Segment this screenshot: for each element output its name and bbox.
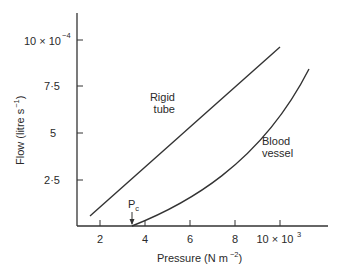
- y-tick-label: 2·5: [44, 174, 60, 186]
- blood-vessel-label: Blood: [262, 135, 290, 147]
- rigid-tube-line: [90, 47, 280, 216]
- blood-vessel-label: vessel: [262, 147, 293, 159]
- arrowhead-icon: [130, 219, 135, 225]
- y-tick-label: 7·5: [44, 80, 60, 92]
- x-axis-label: Pressure (N m−2): [157, 250, 242, 264]
- y-tick-label: 10 × 10: [24, 35, 61, 47]
- x-tick-label: 2: [97, 233, 103, 245]
- x-tick-label: 6: [187, 233, 193, 245]
- x-tick-exponent: 3: [297, 230, 301, 239]
- x-ticks: [100, 220, 280, 226]
- y-tick-exponent: −4: [62, 31, 71, 40]
- y-ticks: [77, 40, 83, 180]
- x-tick-label: 10 × 10: [256, 233, 293, 245]
- rigid-tube-label: Rigid: [150, 91, 175, 103]
- x-tick-label: 4: [142, 233, 148, 245]
- y-axis-label: Flow (litre s−1): [12, 96, 26, 165]
- y-tick-label: 5: [50, 127, 56, 139]
- flow-pressure-chart: 2 4 6 8 10 × 10 3 2·5 5 7·5 10 × 10 −4 P…: [0, 0, 338, 272]
- rigid-tube-label: tube: [154, 103, 175, 115]
- critical-pressure-label: Pc: [128, 198, 139, 213]
- x-tick-label: 8: [232, 233, 238, 245]
